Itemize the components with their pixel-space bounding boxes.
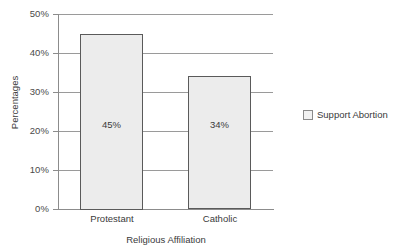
bar-catholic xyxy=(188,76,251,209)
legend-swatch-support-abortion xyxy=(303,110,313,120)
x-tick-label: Protestant xyxy=(58,213,166,224)
chart-legend: Support Abortion xyxy=(303,109,388,120)
y-tick-label: 0% xyxy=(35,203,49,214)
bar-value-label: 45% xyxy=(80,119,143,130)
legend-label-support-abortion: Support Abortion xyxy=(317,109,388,120)
y-axis-line xyxy=(58,14,59,210)
gridline xyxy=(58,14,273,15)
bar-value-label: 34% xyxy=(188,119,251,130)
y-axis-title: Percentages xyxy=(9,58,20,148)
y-tick-label: 40% xyxy=(30,47,49,58)
y-tick-label: 20% xyxy=(30,125,49,136)
y-tick-label: 30% xyxy=(30,86,49,97)
bar-chart: Percentages 0%10%20%30%40%50% 45%34% Pro… xyxy=(0,0,411,252)
x-tick-label: Catholic xyxy=(166,213,274,224)
y-tick-label: 10% xyxy=(30,164,49,175)
y-tick-label: 50% xyxy=(30,8,49,19)
x-axis-title: Religious Affiliation xyxy=(58,234,274,245)
